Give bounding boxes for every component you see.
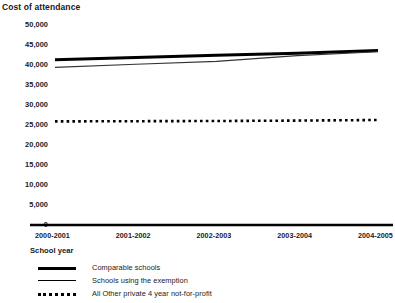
legend-item: All Other private 4 year not-for-profit [30, 288, 390, 301]
x-axis-tick-label: 2000-2001 [35, 231, 70, 240]
series-line [55, 120, 378, 121]
x-axis-tick-label: 2003-2004 [277, 231, 312, 240]
thin-line-marker [38, 280, 76, 285]
chart-container: Cost of attendance 05,00010,00015,00020,… [0, 0, 395, 303]
x-axis-tick-label: 2002-2003 [197, 231, 232, 240]
chart-legend: Comparable schoolsSchools using the exem… [30, 262, 390, 301]
series-line [55, 51, 378, 60]
plot-area [0, 0, 395, 303]
legend-item-label: All Other private 4 year not-for-profit [92, 288, 212, 300]
x-axis-tick-label: 2001-2002 [116, 231, 151, 240]
legend-item: Comparable schools [30, 262, 390, 275]
legend-item-label: Schools using the exemption [92, 275, 188, 287]
legend-item: Schools using the exemption [30, 275, 390, 288]
legend-item-label: Comparable schools [92, 262, 160, 274]
x-axis-label: School year [30, 246, 74, 255]
dotted-line-marker [38, 293, 76, 300]
x-axis-tick-label: 2004-2005 [358, 231, 393, 240]
thick-line-marker [38, 267, 76, 274]
